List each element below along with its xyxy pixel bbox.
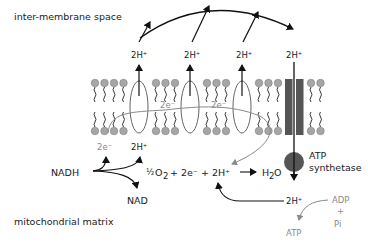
pi-label: Pi xyxy=(334,219,341,229)
lipid-head xyxy=(203,127,211,135)
lipid-tail xyxy=(310,87,312,102)
proton-return-arrow xyxy=(218,183,284,201)
atp-formation-arrow xyxy=(299,200,328,220)
half-fraction: ½ xyxy=(146,167,154,177)
lipid-head xyxy=(162,79,170,87)
adp-label: ADP xyxy=(332,195,350,205)
atp-product-label: ATP xyxy=(286,228,301,238)
lipid-head xyxy=(265,79,273,87)
proton-label-1: 2H⁺ xyxy=(131,50,147,60)
lipid-tail xyxy=(258,112,260,127)
electron-transfer-label-1: 2e⁻ xyxy=(160,100,175,110)
oxygen-reduction-equation: ½ O 2 + 2e⁻ + 2H⁺ H 2 O xyxy=(146,167,281,181)
proton-pump-arrow-2 xyxy=(192,6,209,42)
lipid-head xyxy=(91,79,99,87)
lipid-tail xyxy=(94,87,96,102)
lipid-tail xyxy=(225,112,227,127)
lipid-tail xyxy=(113,87,115,102)
lipid-tail xyxy=(310,112,312,127)
lipid-tail xyxy=(216,112,218,127)
proton-flow-arc xyxy=(140,11,293,38)
atp-synthetase-label-1: ATP xyxy=(309,150,327,161)
lipid-head xyxy=(110,127,118,135)
proton-pump-arrow-3 xyxy=(243,12,258,42)
mitochondrial-matrix-label: mitochondrial matrix xyxy=(14,216,114,227)
nadh-label: NADH xyxy=(51,167,79,178)
nadh-proton-label: 2H⁺ xyxy=(131,142,147,152)
nadh-to-nad-arrow xyxy=(93,171,137,188)
lipid-head xyxy=(162,127,170,135)
nad-label: NAD xyxy=(127,195,148,206)
lipid-tail xyxy=(320,87,322,102)
proton-label-3: 2H⁺ xyxy=(236,50,252,60)
lipid-tail xyxy=(277,87,279,102)
atp-synthase-right xyxy=(296,79,304,135)
lipid-head xyxy=(101,127,109,135)
proton-label-2: 2H⁺ xyxy=(184,50,200,60)
lipid-head xyxy=(120,127,128,135)
lipid-head xyxy=(222,79,230,87)
lipid-tail xyxy=(206,87,208,102)
lipid-head xyxy=(222,127,230,135)
lipid-head xyxy=(317,79,325,87)
oxygen-subscript: 2 xyxy=(163,171,168,181)
proton-label-synthase-in: 2H⁺ xyxy=(286,50,302,60)
lipid-head xyxy=(91,127,99,135)
plus-label: + xyxy=(337,206,344,216)
lipid-tail xyxy=(268,87,270,102)
lipid-head xyxy=(101,79,109,87)
lipid-head xyxy=(274,79,282,87)
lipid-head xyxy=(213,79,221,87)
lipid-tail xyxy=(155,112,157,127)
water-o: O xyxy=(274,167,281,178)
lipid-head xyxy=(274,127,282,135)
matrix-proton-label: 2H⁺ xyxy=(286,196,302,206)
lipid-head xyxy=(120,79,128,87)
lipid-tail xyxy=(104,112,106,127)
lipid-head xyxy=(110,79,118,87)
lipid-tail xyxy=(94,112,96,127)
lipid-tail xyxy=(320,112,322,127)
lipid-tail xyxy=(123,87,125,102)
electron-transfer-label-2: 2e⁻ xyxy=(211,100,226,110)
nadh-electron-label: 2e⁻ xyxy=(97,142,112,152)
lipid-head xyxy=(203,79,211,87)
nadh-to-electron-arrow xyxy=(93,157,106,171)
intermembrane-space-label: inter-membrane space xyxy=(14,11,122,22)
lipid-head xyxy=(152,79,160,87)
electron-transfer-path xyxy=(108,107,270,164)
lipid-head xyxy=(307,127,315,135)
lipid-head xyxy=(307,79,315,87)
lipid-tail xyxy=(165,112,167,127)
lipid-head xyxy=(255,127,263,135)
lipid-tail xyxy=(277,112,279,127)
oxygen-symbol: O xyxy=(155,167,162,178)
lipid-head xyxy=(152,127,160,135)
reactants-text: + 2e⁻ + 2H⁺ xyxy=(170,167,230,178)
lipid-tail xyxy=(174,112,176,127)
lipid-tail xyxy=(104,87,106,102)
lipid-head xyxy=(317,127,325,135)
lipid-head xyxy=(255,79,263,87)
lipid-tail xyxy=(258,87,260,102)
lipid-head xyxy=(213,127,221,135)
electron-transport-diagram: inter-membrane space mitochondrial matri… xyxy=(0,0,368,248)
lipid-head xyxy=(171,127,179,135)
lipid-tail xyxy=(206,112,208,127)
lipid-head xyxy=(171,79,179,87)
lipid-head xyxy=(265,127,273,135)
atp-synthase-left xyxy=(285,79,293,135)
atp-synthetase-label-2: synthetase xyxy=(309,162,362,173)
lipid-tail xyxy=(155,87,157,102)
